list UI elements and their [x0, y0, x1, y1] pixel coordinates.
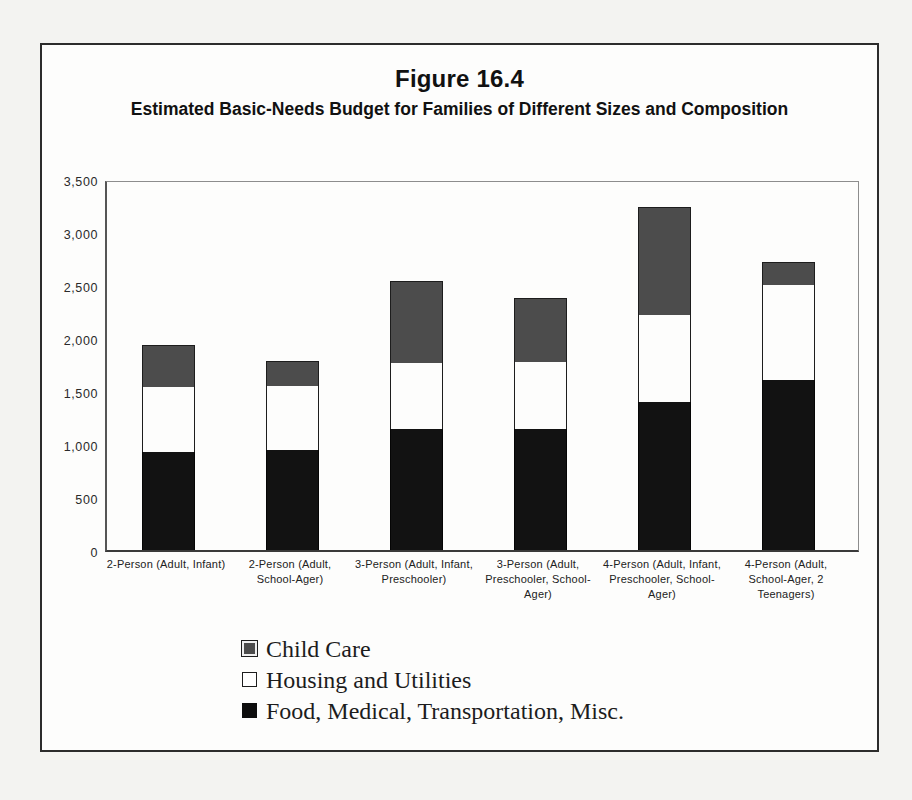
segment-food-medical-transportation-misc [390, 429, 443, 550]
segment-child-care [266, 361, 319, 386]
chart-legend: Child CareHousing and UtilitiesFood, Med… [242, 633, 762, 726]
title-block: Figure 16.4 Estimated Basic-Needs Budget… [42, 65, 877, 120]
x-axis-category-label: 4-Person (Adult, Infant, Preschooler, Sc… [602, 557, 722, 602]
segment-food-medical-transportation-misc [514, 429, 567, 550]
x-axis-category-label: 2-Person (Adult, School-Ager) [230, 557, 350, 587]
segment-child-care [514, 298, 567, 362]
housing-color-swatch-icon [242, 672, 257, 687]
segment-housing-and-utilities [514, 362, 567, 429]
y-axis-tick: 500 [75, 493, 98, 507]
x-axis-category-labels: 2-Person (Adult, Infant)2-Person (Adult,… [105, 557, 859, 637]
legend-item-label: Housing and Utilities [266, 668, 471, 692]
y-axis-tick: 1,500 [64, 387, 98, 401]
y-axis-tick: 3,000 [64, 228, 98, 242]
segment-housing-and-utilities [762, 285, 815, 380]
segment-child-care [390, 281, 443, 363]
x-axis-category-label: 4-Person (Adult, School-Ager, 2 Teenager… [726, 557, 846, 602]
x-axis-category-label: 3-Person (Adult, Preschooler, School-Age… [478, 557, 598, 602]
segment-child-care [762, 262, 815, 285]
legend-item: Child Care [242, 633, 762, 664]
x-axis-category-label: 3-Person (Adult, Infant, Preschooler) [354, 557, 474, 587]
bar-group [762, 262, 815, 550]
bar-group [142, 345, 195, 550]
legend-item-label: Food, Medical, Transportation, Misc. [266, 699, 624, 723]
legend-item: Food, Medical, Transportation, Misc. [242, 695, 762, 726]
plot-area: 3,5003,0002,5002,0001,5001,0005000 [105, 181, 859, 552]
y-axis-tick: 0 [90, 546, 98, 560]
bar-series-container [107, 182, 858, 550]
y-axis-tick: 2,500 [64, 281, 98, 295]
food-color-swatch-icon [242, 703, 257, 718]
segment-food-medical-transportation-misc [638, 402, 691, 550]
bar-group [266, 361, 319, 550]
y-axis-tick: 3,500 [64, 175, 98, 189]
bar-group [390, 281, 443, 550]
segment-housing-and-utilities [266, 386, 319, 450]
segment-food-medical-transportation-misc [142, 452, 195, 550]
childcare-color-swatch-icon [242, 641, 257, 656]
bar-group [514, 298, 567, 550]
y-axis-tick: 1,000 [64, 440, 98, 454]
bar-group [638, 207, 691, 550]
figure-number: Figure 16.4 [42, 65, 877, 93]
segment-housing-and-utilities [638, 315, 691, 402]
y-axis-tick: 2,000 [64, 334, 98, 348]
segment-food-medical-transportation-misc [762, 380, 815, 550]
segment-food-medical-transportation-misc [266, 450, 319, 550]
x-axis-category-label: 2-Person (Adult, Infant) [106, 557, 226, 572]
segment-child-care [142, 345, 195, 387]
segment-child-care [638, 207, 691, 315]
legend-item-label: Child Care [266, 637, 371, 661]
figure-subtitle: Estimated Basic-Needs Budget for Familie… [42, 99, 877, 120]
figure-border-box: Figure 16.4 Estimated Basic-Needs Budget… [40, 43, 879, 752]
segment-housing-and-utilities [142, 387, 195, 452]
legend-item: Housing and Utilities [242, 664, 762, 695]
segment-housing-and-utilities [390, 363, 443, 429]
